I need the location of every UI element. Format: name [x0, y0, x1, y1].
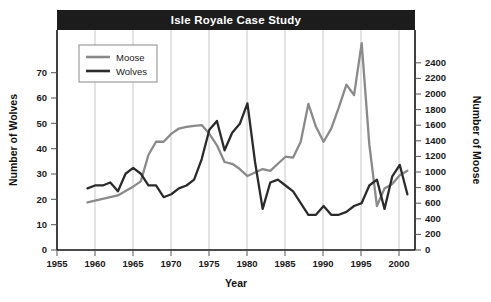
- y-tick-label-30: 30: [36, 168, 47, 179]
- y2-tick-label-800: 800: [425, 182, 441, 193]
- y-tick-label-10: 10: [36, 219, 47, 230]
- y-tick-label-20: 20: [36, 194, 47, 205]
- y-axis-left-title: Number of Wolves: [7, 94, 19, 186]
- chart-title-bar: Isle Royale Case Study: [57, 10, 415, 30]
- x-tick-label-1995: 1995: [350, 258, 372, 269]
- x-tick-label-1970: 1970: [160, 258, 181, 269]
- y-tick-label-60: 60: [36, 92, 47, 103]
- y-tick-label-70: 70: [36, 67, 47, 78]
- chart-legend: Moose Wolves: [79, 45, 157, 82]
- y2-tick-label-1200: 1200: [425, 150, 446, 161]
- y2-tick-label-2000: 2000: [425, 88, 446, 99]
- x-tick-label-1955: 1955: [46, 258, 68, 269]
- y2-tick-label-1800: 1800: [425, 104, 446, 115]
- y2-tick-label-400: 400: [425, 213, 441, 224]
- chart-title: Isle Royale Case Study: [171, 14, 302, 26]
- y2-tick-label-600: 600: [425, 197, 441, 208]
- y-axis-right-title: Number of Moose: [471, 96, 483, 185]
- x-tick-label-1980: 1980: [236, 258, 257, 269]
- x-tick-label-1975: 1975: [198, 258, 220, 269]
- y2-tick-label-200: 200: [425, 228, 441, 239]
- y2-tick-label-1000: 1000: [425, 166, 446, 177]
- y2-tick-label-1400: 1400: [425, 135, 446, 146]
- y2-tick-label-1600: 1600: [425, 119, 446, 130]
- y-tick-label-0: 0: [42, 244, 47, 255]
- x-tick-label-1985: 1985: [274, 258, 296, 269]
- x-tick-label-2000: 2000: [388, 258, 409, 269]
- x-axis-title: Year: [225, 277, 247, 289]
- y-tick-label-50: 50: [36, 118, 47, 129]
- chart-figure: Isle Royale Case Study 0: [0, 0, 491, 302]
- y-tick-label-40: 40: [36, 143, 47, 154]
- legend-label-moose: Moose: [116, 52, 145, 63]
- x-tick-label-1990: 1990: [312, 258, 333, 269]
- x-tick-label-1965: 1965: [122, 258, 144, 269]
- isle-royale-line-chart: Isle Royale Case Study 0: [0, 0, 491, 302]
- y2-tick-label-2200: 2200: [425, 72, 446, 83]
- y2-tick-label-2400: 2400: [425, 57, 446, 68]
- x-tick-label-1960: 1960: [84, 258, 105, 269]
- y2-tick-label-0: 0: [425, 244, 430, 255]
- legend-label-wolves: Wolves: [116, 66, 147, 77]
